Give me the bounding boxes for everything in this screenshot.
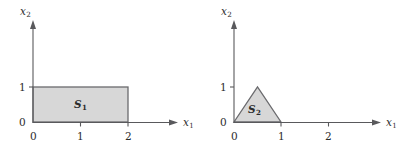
- y-tick-label-1: 1: [19, 82, 26, 93]
- x-axis-arrow-icon: [169, 120, 178, 126]
- x-axis-label: x1: [183, 117, 194, 129]
- y-tick-label-0: 0: [19, 117, 26, 128]
- x-tick-label-2: 2: [325, 131, 332, 142]
- region-label-s2: S2: [248, 104, 261, 116]
- region-label-s1: S1: [74, 99, 87, 111]
- region-label-s1-sub: 1: [82, 103, 87, 112]
- y-axis-label: x2: [20, 6, 31, 18]
- y-axis-label-sub: 2: [26, 10, 31, 19]
- x-tick-label-1: 1: [77, 131, 84, 142]
- y-tick-label-0: 0: [220, 117, 227, 128]
- region-label-s2-base: S: [248, 103, 256, 115]
- y-axis-label: x2: [221, 6, 232, 18]
- y-axis-label-sub: 2: [227, 10, 232, 19]
- y-tick-label-1: 1: [220, 82, 227, 93]
- x-tick-label-0: 0: [30, 131, 37, 142]
- plot-left: x2 x1 1 0 0 1 2 S1: [0, 0, 203, 154]
- x-tick-label-0: 0: [231, 131, 238, 142]
- x-axis-label: x1: [386, 117, 397, 129]
- figure-container: x2 x1 1 0 0 1 2 S1: [0, 0, 406, 154]
- x-tick-label-2: 2: [125, 131, 132, 142]
- plot-right: x2 x1 1 0 0 1 2 S2: [203, 0, 406, 154]
- x-tick-label-1: 1: [278, 131, 285, 142]
- y-axis-arrow-icon: [231, 20, 237, 29]
- x-axis-label-sub: 1: [392, 121, 397, 130]
- x-axis-arrow-icon: [372, 120, 381, 126]
- region-label-s1-base: S: [74, 98, 82, 110]
- y-axis-arrow-icon: [30, 20, 36, 29]
- region-label-s2-sub: 2: [256, 108, 261, 117]
- x-axis-label-sub: 1: [189, 121, 194, 130]
